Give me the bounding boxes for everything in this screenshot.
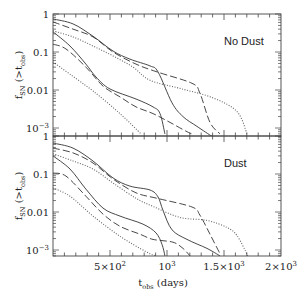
curve-upper-solid (53, 143, 220, 256)
x-axis-title: tobs (days) (138, 277, 188, 291)
panel-annotation: Dust (224, 157, 247, 169)
y-tick-label: 1 (43, 131, 49, 142)
series-group (53, 19, 247, 136)
y-tick-label: 0.1 (33, 169, 49, 180)
curve-lower-solid (53, 156, 165, 256)
x-tick-label: 1.5×103 (203, 260, 244, 272)
curve-lower-solid (53, 32, 165, 134)
series-group (53, 143, 248, 256)
curve-upper-solid (53, 19, 212, 136)
chart-svg: 10.10.0110−3No DustfSN (>tobs)10.10.0110… (0, 0, 304, 296)
curve-upper-dotted (53, 31, 247, 134)
chart-panels: 10.10.0110−3No DustfSN (>tobs)10.10.0110… (13, 9, 281, 257)
curve-lower-dashed (53, 173, 190, 256)
panel-annotation: No Dust (224, 35, 264, 47)
curve-lower-dashed (53, 44, 192, 134)
curve-upper-dashed (53, 148, 220, 254)
x-axis-tick-labels: 5×1021031.5×1032×103 (94, 260, 297, 272)
x-tick-label: 5×102 (94, 260, 126, 272)
y-tick-label: 0.1 (33, 47, 49, 58)
y-axis-title: fSN (>tobs) (13, 51, 27, 100)
plot-frame (53, 136, 281, 256)
chart-figure: 10.10.0110−3No DustfSN (>tobs)10.10.0110… (0, 0, 304, 296)
curve-lower-dotted (53, 188, 156, 256)
y-axis-title: fSN (>tobs) (13, 172, 27, 221)
y-tick-label: 1 (43, 9, 49, 20)
y-tick-label: 0.01 (27, 85, 49, 96)
curve-upper-dotted (53, 154, 248, 256)
curve-lower-dotted (53, 62, 141, 134)
panel-dust: 10.10.0110−3DustfSN (>tobs) (13, 131, 281, 257)
y-tick-label: 10−3 (26, 244, 49, 256)
panel-no-dust: 10.10.0110−3No DustfSN (>tobs) (13, 9, 281, 137)
x-tick-label: 2×103 (265, 260, 297, 272)
y-tick-label: 0.01 (27, 207, 49, 218)
x-tick-label: 103 (158, 260, 175, 272)
